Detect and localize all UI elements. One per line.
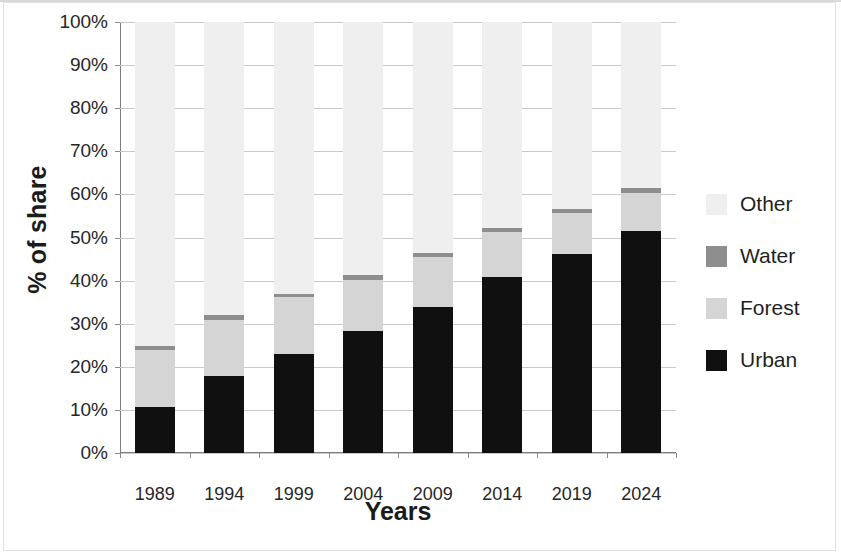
plot-area: 0%10%20%30%40%50%60%70%80%90%100% 198919… <box>120 22 676 453</box>
bar-segment-forest <box>343 280 383 331</box>
bar-segment-urban <box>343 331 383 453</box>
bar-1999 <box>274 22 314 453</box>
y-tick-mark <box>115 410 120 411</box>
legend-label: Water <box>740 244 795 268</box>
x-axis-title: Years <box>120 497 676 526</box>
x-tick-mark <box>329 453 330 458</box>
x-tick-mark <box>190 453 191 458</box>
x-tick-mark <box>607 453 608 458</box>
x-tick-mark <box>537 453 538 458</box>
legend-swatch-urban <box>706 350 727 371</box>
y-tick-mark <box>115 22 120 23</box>
legend-item-other[interactable]: Other <box>706 178 836 230</box>
bar-segment-forest <box>621 193 661 231</box>
bar-segment-water <box>621 188 661 193</box>
x-tick-mark <box>398 453 399 458</box>
bar-segment-other <box>482 22 522 228</box>
bar-1994 <box>204 22 244 453</box>
bar-segment-forest <box>552 213 592 254</box>
bar-segment-other <box>343 22 383 275</box>
chart-figure: % of share 0%10%20%30%40%50%60%70%80%90%… <box>0 0 841 558</box>
y-tick-label: 70% <box>0 140 108 162</box>
y-tick-mark <box>115 281 120 282</box>
bar-segment-forest <box>413 257 453 307</box>
legend-swatch-forest <box>706 298 727 319</box>
x-tick-mark <box>676 453 677 458</box>
bar-segment-other <box>135 22 175 346</box>
y-tick-label: 60% <box>0 183 108 205</box>
y-tick-label: 80% <box>0 97 108 119</box>
bar-segment-urban <box>413 307 453 453</box>
bar-segment-urban <box>274 354 314 453</box>
bar-segment-other <box>274 22 314 294</box>
x-tick-mark <box>259 453 260 458</box>
y-tick-mark <box>115 238 120 239</box>
y-tick-mark <box>115 151 120 152</box>
legend-swatch-other <box>706 194 727 215</box>
bar-2024 <box>621 22 661 453</box>
x-tick-mark <box>468 453 469 458</box>
y-tick-label: 50% <box>0 227 108 249</box>
bar-segment-other <box>413 22 453 253</box>
bar-segment-forest <box>274 297 314 354</box>
bar-segment-urban <box>482 277 522 453</box>
y-tick-label: 100% <box>0 11 108 33</box>
y-tick-label: 10% <box>0 399 108 421</box>
bar-segment-water <box>482 228 522 231</box>
legend-item-water[interactable]: Water <box>706 230 836 282</box>
y-tick-label: 40% <box>0 270 108 292</box>
y-tick-mark <box>115 108 120 109</box>
bar-segment-other <box>552 22 592 209</box>
bar-segment-urban <box>135 407 175 453</box>
bar-2019 <box>552 22 592 453</box>
legend-label: Urban <box>740 348 797 372</box>
bar-segment-other <box>621 22 661 188</box>
bar-1989 <box>135 22 175 453</box>
bar-2009 <box>413 22 453 453</box>
y-tick-label: 0% <box>0 442 108 464</box>
bar-segment-water <box>343 275 383 280</box>
bar-segment-urban <box>621 231 661 453</box>
y-tick-mark <box>115 367 120 368</box>
y-tick-mark <box>115 194 120 195</box>
bar-segment-water <box>413 253 453 257</box>
bar-segment-forest <box>135 350 175 406</box>
y-tick-mark <box>115 65 120 66</box>
bar-segment-water <box>204 315 244 320</box>
bar-segment-other <box>204 22 244 315</box>
legend-swatch-water <box>706 246 727 267</box>
bar-segment-urban <box>204 376 244 453</box>
legend-label: Other <box>740 192 793 216</box>
x-tick-mark <box>120 453 121 458</box>
bar-segment-forest <box>204 320 244 376</box>
bar-segment-forest <box>482 232 522 277</box>
bar-segment-water <box>274 294 314 297</box>
y-tick-label: 90% <box>0 54 108 76</box>
chart-legend: OtherWaterForestUrban <box>706 178 836 386</box>
bar-2004 <box>343 22 383 453</box>
bar-2014 <box>482 22 522 453</box>
y-tick-mark <box>115 324 120 325</box>
bar-segment-water <box>552 209 592 213</box>
y-tick-label: 30% <box>0 313 108 335</box>
y-tick-label: 20% <box>0 356 108 378</box>
legend-item-urban[interactable]: Urban <box>706 334 836 386</box>
legend-item-forest[interactable]: Forest <box>706 282 836 334</box>
bar-segment-water <box>135 346 175 351</box>
bar-segment-urban <box>552 254 592 453</box>
scan-edge-top <box>0 0 841 2</box>
legend-label: Forest <box>740 296 800 320</box>
